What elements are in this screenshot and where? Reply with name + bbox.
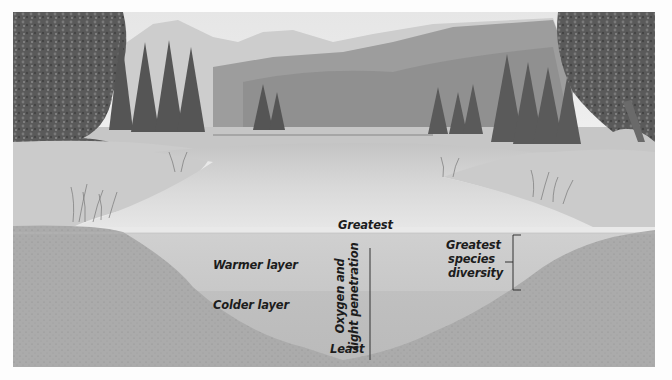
warmer-layer-label: Warmer layer: [213, 258, 298, 272]
oxygen-light-gradient-label: Oxygen and light penetration: [333, 237, 361, 355]
diversity-label-line3: diversity: [448, 266, 503, 280]
lake-cross-section-illustration: Greatest Warmer layer Colder layer Least…: [13, 12, 655, 367]
colder-layer-label: Colder layer: [213, 298, 289, 312]
diversity-label-line1: Greatest: [446, 238, 503, 252]
gradient-label-line2: light penetration: [347, 237, 361, 355]
gradient-greatest-label: Greatest: [338, 218, 393, 232]
species-diversity-label: Greatest species diversity: [446, 238, 503, 280]
gradient-label-line1: Oxygen and: [333, 237, 347, 355]
diversity-label-line2: species: [448, 252, 503, 266]
